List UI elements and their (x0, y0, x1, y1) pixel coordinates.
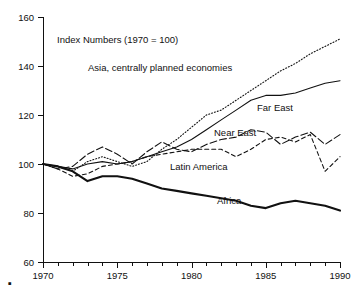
index-note-annotation: Index Numbers (1970 = 100) (57, 34, 178, 45)
series-label-near-east: Near East (214, 127, 257, 138)
x-tick-label: 1985 (255, 270, 276, 281)
corner-dot-mark: ▪ (8, 277, 12, 289)
x-tick-label: 1990 (329, 270, 350, 281)
series-label-latin-america: Latin America (170, 161, 228, 172)
y-axis-tick-labels: 6080100120140160 (18, 12, 34, 268)
axes-group: 6080100120140160 19701975198019851990 (18, 12, 350, 281)
x-tick-label: 1975 (107, 270, 128, 281)
chart-canvas: 6080100120140160 19701975198019851990 As… (0, 0, 357, 297)
series-label-group: Asia, centrally planned economiesFar Eas… (88, 62, 293, 206)
series-line-far-east (43, 81, 340, 169)
x-axis-ticks (44, 262, 341, 268)
y-tick-label: 80 (23, 208, 34, 219)
y-tick-label: 100 (18, 159, 34, 170)
series-label-far-east: Far East (257, 102, 293, 113)
y-tick-label: 160 (18, 12, 34, 23)
x-axis-tick-labels: 19701975198019851990 (32, 270, 350, 281)
index-numbers-line-chart: 6080100120140160 19701975198019851990 As… (0, 0, 357, 297)
x-tick-label: 1970 (32, 270, 53, 281)
y-axis-ticks (38, 18, 43, 263)
y-tick-label: 140 (18, 61, 34, 72)
series-label-asia-centrally-planned-economies: Asia, centrally planned economies (88, 62, 232, 73)
series-label-africa: Africa (217, 195, 242, 206)
x-tick-label: 1980 (181, 270, 202, 281)
y-tick-label: 120 (18, 110, 34, 121)
y-tick-label: 60 (23, 257, 34, 268)
